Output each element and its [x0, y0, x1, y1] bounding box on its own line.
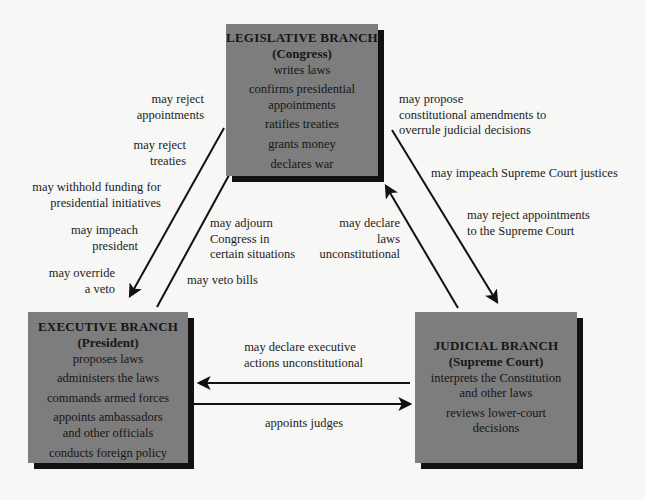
label-line: may reject appointments	[467, 208, 590, 224]
check-propose-amendments: may propose constitutional amendments to…	[399, 92, 546, 139]
check-impeach-justices: may impeach Supreme Court justices	[431, 166, 618, 182]
executive-power: conducts foreign policy	[28, 446, 188, 462]
label-line: may reject	[137, 92, 204, 108]
executive-power: administers the laws	[28, 371, 188, 387]
label-line: may reject	[134, 138, 186, 154]
label-line: constitutional amendments to	[399, 108, 546, 124]
label-line: may declare	[319, 216, 400, 232]
executive-subtitle: (President)	[28, 335, 188, 351]
check-override-veto: may override a veto	[49, 266, 115, 297]
executive-branch-box: EXECUTIVE BRANCH (President) proposes la…	[28, 312, 188, 463]
judicial-title: JUDICIAL BRANCH	[415, 338, 577, 354]
check-reject-appointments: may reject appointments	[137, 92, 204, 123]
legislative-subtitle: (Congress)	[226, 46, 378, 62]
judicial-power: interprets the Constitution	[415, 371, 577, 387]
label-line: a veto	[49, 282, 115, 298]
judicial-power: decisions	[415, 421, 577, 437]
judicial-subtitle: (Supreme Court)	[415, 354, 577, 370]
check-reject-court-appointments: may reject appointments to the Supreme C…	[467, 208, 590, 239]
label-line: to the Supreme Court	[467, 224, 590, 240]
legislative-power: ratifies treaties	[226, 117, 378, 133]
legislative-power: writes laws	[226, 63, 378, 79]
label-line: president	[71, 239, 138, 255]
legislative-branch-box: LEGISLATIVE BRANCH (Congress) writes law…	[226, 24, 378, 176]
label-line: laws	[319, 232, 400, 248]
label-line: treaties	[134, 154, 186, 170]
check-declare-laws-unconstitutional: may declare laws unconstitutional	[319, 216, 400, 263]
label-line: overrule judicial decisions	[399, 123, 546, 139]
executive-power: commands armed forces	[28, 391, 188, 407]
executive-title: EXECUTIVE BRANCH	[28, 319, 188, 335]
label-line: may propose	[399, 92, 546, 108]
label-line: may adjourn	[210, 216, 295, 232]
check-reject-treaties: may reject treaties	[134, 138, 186, 169]
legislative-power: appointments	[226, 98, 378, 114]
check-appoints-judges: appoints judges	[258, 416, 350, 432]
label-line: actions unconstitutional	[244, 356, 356, 372]
label-line: may override	[49, 266, 115, 282]
executive-power: proposes laws	[28, 352, 188, 368]
label-line: may withhold funding for	[32, 180, 161, 196]
check-withhold-funding: may withhold funding for presidential in…	[32, 180, 161, 211]
label-line: may declare executive	[244, 340, 356, 356]
check-veto-bills: may veto bills	[187, 273, 258, 289]
executive-power: appoints ambassadors	[28, 410, 188, 426]
check-declare-actions-unconstitutional: may declare executive actions unconstitu…	[244, 340, 356, 371]
judicial-power: and other laws	[415, 386, 577, 402]
label-line: appointments	[137, 108, 204, 124]
legislative-title: LEGISLATIVE BRANCH	[226, 30, 378, 46]
label-line: appoints judges	[258, 416, 350, 432]
label-line: presidential initiatives	[32, 196, 161, 212]
legislative-power: grants money	[226, 137, 378, 153]
label-line: unconstitutional	[319, 247, 400, 263]
label-line: certain situations	[210, 247, 295, 263]
check-adjourn-congress: may adjourn Congress in certain situatio…	[210, 216, 295, 263]
legislative-power: confirms presidential	[226, 82, 378, 98]
judicial-power: reviews lower-court	[415, 406, 577, 422]
label-line: may veto bills	[187, 273, 258, 289]
legislative-power: declares war	[226, 157, 378, 173]
label-line: may impeach Supreme Court justices	[431, 166, 618, 182]
label-line: Congress in	[210, 232, 295, 248]
judicial-branch-box: JUDICIAL BRANCH (Supreme Court) interpre…	[415, 312, 577, 463]
executive-power: and other officials	[28, 426, 188, 442]
check-impeach-president: may impeach president	[71, 223, 138, 254]
label-line: may impeach	[71, 223, 138, 239]
